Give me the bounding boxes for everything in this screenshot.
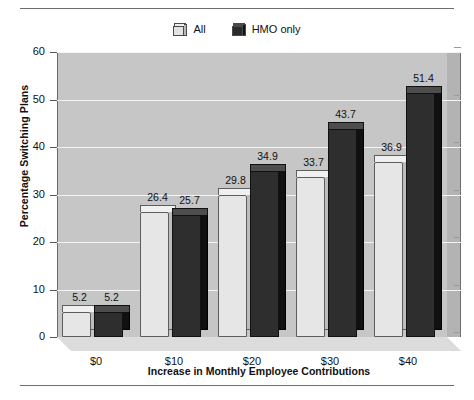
legend-label-hmo-only: HMO only xyxy=(252,24,301,35)
bar-top-face xyxy=(140,205,176,212)
bar-all-20 xyxy=(218,195,247,337)
gridline xyxy=(57,52,461,53)
bottom-divider-rule xyxy=(20,385,454,386)
bar-top-face xyxy=(296,170,332,177)
gridline xyxy=(57,100,461,101)
legend-entry-hmo-only: HMO only xyxy=(232,23,301,36)
y-tick-mark-right xyxy=(454,47,461,48)
bar-top-face xyxy=(172,208,208,215)
y-axis-title: Percentage Switching Plans xyxy=(18,46,30,266)
bar-top-face xyxy=(328,122,364,129)
bar-top-face xyxy=(374,155,410,162)
y-tick-label: 40 xyxy=(13,141,45,152)
bar-value-label: 5.2 xyxy=(90,292,134,303)
bar-side-face xyxy=(201,208,208,330)
y-tick-label: 20 xyxy=(13,236,45,247)
bar-value-label: 43.7 xyxy=(324,109,368,120)
y-tick-mark-right xyxy=(454,285,461,286)
bar-hmo-only-40 xyxy=(406,93,435,337)
bar-top-face xyxy=(250,164,286,171)
bar-hmo-only-10 xyxy=(172,215,201,337)
bar-top-face xyxy=(62,305,98,312)
y-tick-label: 50 xyxy=(13,94,45,105)
y-tick-mark-right xyxy=(454,95,461,96)
bar-all-40 xyxy=(374,162,403,337)
figure: All HMO only Percentage Switching Plans … xyxy=(0,0,474,400)
bar-top-face xyxy=(218,188,254,195)
y-tick-label: 0 xyxy=(13,331,45,342)
bar-front-face xyxy=(140,212,169,337)
bar-side-face xyxy=(357,122,364,330)
bar-front-face xyxy=(218,195,247,337)
bar-side-face xyxy=(435,86,442,330)
chart-legend: All HMO only xyxy=(0,18,474,40)
bar-all-10 xyxy=(140,212,169,337)
y-tick-mark-right xyxy=(454,142,461,143)
y-tick-mark-right xyxy=(454,237,461,238)
plot-floor xyxy=(57,337,461,351)
bar-front-face xyxy=(94,312,123,337)
y-tick-mark xyxy=(50,147,57,148)
bar-front-face xyxy=(172,215,201,337)
legend-swatch-hmo-only-icon xyxy=(232,23,246,36)
bar-top-face xyxy=(406,86,442,93)
legend-swatch-all-icon xyxy=(173,23,187,36)
y-tick-label: 60 xyxy=(13,46,45,57)
y-tick-label: 10 xyxy=(13,284,45,295)
legend-entry-all: All xyxy=(173,23,205,36)
y-tick-label: 30 xyxy=(13,189,45,200)
bar-all-0 xyxy=(62,312,91,337)
bar-front-face xyxy=(296,177,325,337)
y-tick-mark xyxy=(50,195,57,196)
bar-front-face xyxy=(250,171,279,337)
bar-front-face xyxy=(406,93,435,337)
bar-front-face xyxy=(374,162,403,337)
bar-value-label: 25.7 xyxy=(168,195,212,206)
bar-hmo-only-20 xyxy=(250,171,279,337)
y-tick-mark xyxy=(50,290,57,291)
bar-front-face xyxy=(328,129,357,337)
y-tick-mark xyxy=(50,337,57,338)
y-tick-mark-right xyxy=(454,332,461,333)
legend-label-all: All xyxy=(193,24,205,35)
plot-area: 0102030405060 5.25.226.425.729.834.933.7… xyxy=(57,50,461,345)
y-tick-mark xyxy=(50,52,57,53)
bar-hmo-only-0 xyxy=(94,312,123,337)
bar-top-face xyxy=(94,305,130,312)
bar-value-label: 34.9 xyxy=(246,151,290,162)
bar-side-face xyxy=(279,164,286,330)
x-axis-title: Increase in Monthly Employee Contributio… xyxy=(57,365,461,377)
top-divider-rule xyxy=(20,8,454,9)
bar-value-label: 51.4 xyxy=(402,73,446,84)
bar-hmo-only-30 xyxy=(328,129,357,337)
bar-front-face xyxy=(62,312,91,337)
y-tick-mark xyxy=(50,242,57,243)
bar-all-30 xyxy=(296,177,325,337)
y-tick-mark xyxy=(50,100,57,101)
y-tick-mark-right xyxy=(454,190,461,191)
